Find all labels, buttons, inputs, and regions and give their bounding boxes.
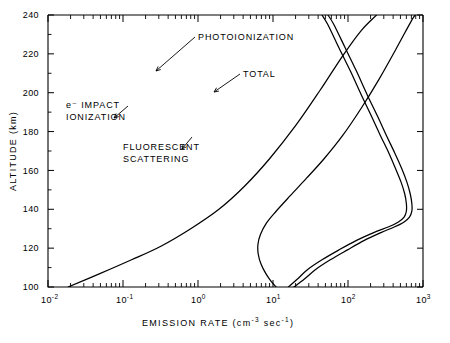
x-title-exp1: -3: [251, 316, 259, 323]
x-title-close: ): [290, 318, 294, 328]
plot-annotations: PHOTOIONIZATIONTOTALe⁻ IMPACTIONIZATIONF…: [66, 32, 294, 164]
x-tick-exponent: 2: [352, 293, 356, 300]
x-tick-mantissa: 10: [41, 295, 52, 305]
fluorescent-scattering-label-line2: SCATTERING: [123, 154, 189, 164]
y-tick-label: 100: [23, 282, 39, 292]
fluorescent-scattering-label-line1: FLUORESCENT: [123, 142, 200, 152]
x-tick-label: 103: [416, 293, 431, 305]
y-tick-label: 160: [23, 166, 39, 176]
x-title-mid: sec: [260, 318, 282, 328]
photoionization-label-leader: [156, 37, 195, 71]
x-tick-exponent: -1: [127, 293, 134, 300]
x-axis-ticks: [48, 15, 423, 287]
x-axis-title: EMISSION RATE (cm-3 sec-1): [142, 316, 294, 328]
x-tick-label: 102: [341, 293, 356, 305]
e-impact-ionization-label-line1: e⁻ IMPACT: [66, 100, 120, 110]
curve-photoionization: [288, 15, 406, 287]
x-tick-label: 101: [266, 293, 281, 305]
e-impact-ionization-label-line2: IONIZATION: [66, 112, 126, 122]
x-tick-label: 100: [191, 293, 206, 305]
x-tick-mantissa: 10: [266, 295, 277, 305]
x-tick-label: 10-2: [41, 293, 58, 305]
x-axis-tick-labels: 10-210-1100101102103: [41, 293, 431, 305]
x-tick-exponent: 1: [277, 293, 281, 300]
x-tick-label: 10-1: [116, 293, 133, 305]
y-axis-title-text: ALTITUDE (km): [8, 111, 18, 191]
photoionization-label: PHOTOIONIZATION: [198, 32, 294, 42]
emission-rate-altitude-plot: 100120140160180200220240 10-210-11001011…: [0, 0, 450, 343]
y-tick-label: 180: [23, 127, 39, 137]
axis-frame: [48, 15, 423, 287]
chart-figure: 100120140160180200220240 10-210-11001011…: [0, 0, 450, 343]
curve-fluorescent-scattering: [258, 15, 416, 287]
x-title-main: EMISSION RATE (cm: [142, 318, 251, 328]
curve-total: [294, 15, 412, 287]
x-title-exp2: -1: [282, 316, 290, 323]
y-axis-ticks: [48, 15, 423, 287]
x-tick-mantissa: 10: [416, 295, 427, 305]
y-axis-title: ALTITUDE (km): [8, 111, 18, 191]
x-tick-mantissa: 10: [341, 295, 352, 305]
x-axis-title-text: EMISSION RATE (cm-3 sec-1): [142, 316, 294, 328]
x-tick-exponent: 3: [427, 293, 431, 300]
y-tick-label: 140: [23, 204, 39, 214]
x-tick-exponent: 0: [202, 293, 206, 300]
y-tick-label: 120: [23, 243, 39, 253]
y-tick-label: 200: [23, 88, 39, 98]
x-tick-exponent: -2: [52, 293, 59, 300]
x-tick-mantissa: 10: [116, 295, 127, 305]
total-label-leader: [214, 74, 240, 92]
total-label: TOTAL: [243, 69, 276, 79]
data-curves: [68, 15, 415, 287]
y-tick-label: 240: [23, 10, 39, 20]
y-axis-tick-labels: 100120140160180200220240: [23, 10, 39, 292]
y-tick-label: 220: [23, 49, 39, 59]
x-tick-mantissa: 10: [191, 295, 202, 305]
